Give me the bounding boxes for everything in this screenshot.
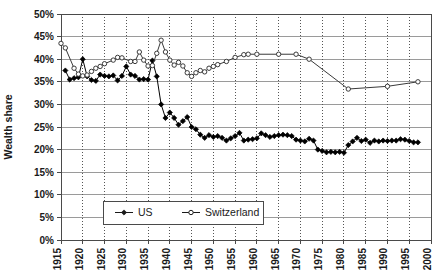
wealth-share-chart: 0%5%10%15%20%25%30%35%40%45%50%191519201… bbox=[0, 0, 443, 280]
series-switzerland-marker-circle bbox=[115, 55, 119, 59]
y-axis-tick-label: 15% bbox=[34, 167, 54, 178]
chart-canvas: 0%5%10%15%20%25%30%35%40%45%50%191519201… bbox=[0, 0, 443, 280]
series-switzerland-marker-circle bbox=[255, 52, 259, 56]
x-axis-tick-label: 1915 bbox=[52, 248, 63, 271]
y-axis-tick-label: 20% bbox=[34, 144, 54, 155]
x-axis-tick-label: 1965 bbox=[270, 248, 281, 271]
x-axis-tick-label: 1975 bbox=[313, 248, 324, 271]
series-switzerland-marker-circle bbox=[59, 41, 63, 45]
y-axis-tick-label: 10% bbox=[34, 189, 54, 200]
series-switzerland-marker-circle bbox=[155, 51, 159, 55]
series-switzerland-marker-circle bbox=[224, 59, 228, 63]
y-axis-tick-label: 40% bbox=[34, 54, 54, 65]
series-switzerland-marker-circle bbox=[416, 80, 420, 84]
series-switzerland-marker-circle bbox=[181, 64, 185, 68]
series-switzerland-marker-circle bbox=[294, 52, 298, 56]
series-switzerland-marker-circle bbox=[146, 64, 150, 68]
series-switzerland-marker-circle bbox=[246, 52, 250, 56]
x-axis-tick-label: 1990 bbox=[378, 248, 389, 271]
series-switzerland-marker-circle bbox=[198, 68, 202, 72]
x-axis-tick-label: 1935 bbox=[139, 248, 150, 271]
x-axis-tick-label: 1920 bbox=[74, 248, 85, 271]
x-axis-tick-label: 1985 bbox=[357, 248, 368, 271]
series-switzerland-marker-circle bbox=[85, 73, 89, 77]
x-axis-tick-label: 1950 bbox=[204, 248, 215, 271]
series-switzerland-marker-circle bbox=[81, 74, 85, 78]
series-switzerland-marker-circle bbox=[185, 71, 189, 75]
y-axis-tick-label: 0% bbox=[40, 235, 55, 246]
legend-label: US bbox=[138, 206, 153, 218]
series-switzerland-marker-circle bbox=[111, 58, 115, 62]
series-switzerland-marker-circle bbox=[76, 72, 80, 76]
series-switzerland-marker-circle bbox=[216, 62, 220, 66]
x-axis-tick-label: 1960 bbox=[248, 248, 259, 271]
series-switzerland-marker-circle bbox=[176, 60, 180, 64]
series-switzerland-marker-circle bbox=[72, 66, 76, 70]
series-switzerland-marker-circle bbox=[168, 58, 172, 62]
series-switzerland-marker-circle bbox=[194, 71, 198, 75]
y-axis-title: Wealth share bbox=[2, 94, 14, 159]
series-switzerland-marker-circle bbox=[189, 74, 193, 78]
series-switzerland-marker-circle bbox=[142, 58, 146, 62]
x-axis-tick-label: 2000 bbox=[422, 248, 433, 271]
series-switzerland-marker-circle bbox=[385, 84, 389, 88]
legend-1-marker-circle bbox=[189, 210, 193, 214]
series-switzerland-marker-circle bbox=[94, 66, 98, 70]
series-switzerland-marker-circle bbox=[120, 56, 124, 60]
y-axis-tick-label: 5% bbox=[40, 212, 55, 223]
legend-label: Switzerland bbox=[205, 206, 259, 218]
series-switzerland-marker-circle bbox=[242, 52, 246, 56]
y-axis-tick-label: 45% bbox=[34, 31, 54, 42]
x-axis-tick-label: 1995 bbox=[400, 248, 411, 271]
series-switzerland-marker-circle bbox=[163, 50, 167, 54]
x-axis-tick-label: 1980 bbox=[335, 248, 346, 271]
series-switzerland-marker-circle bbox=[159, 38, 163, 42]
y-axis-tick-label: 35% bbox=[34, 76, 54, 87]
series-switzerland-marker-circle bbox=[202, 70, 206, 74]
series-switzerland-marker-circle bbox=[89, 69, 93, 73]
x-axis-tick-label: 1930 bbox=[117, 248, 128, 271]
series-switzerland-marker-circle bbox=[207, 66, 211, 70]
series-switzerland-marker-circle bbox=[137, 50, 141, 54]
x-axis-tick-label: 1945 bbox=[183, 248, 194, 271]
y-axis-tick-label: 50% bbox=[34, 9, 54, 20]
x-axis-tick-label: 1925 bbox=[96, 248, 107, 271]
series-switzerland-marker-circle bbox=[63, 46, 67, 50]
series-switzerland-marker-circle bbox=[150, 63, 154, 67]
series-switzerland-marker-circle bbox=[307, 57, 311, 61]
x-axis-tick-label: 1940 bbox=[161, 248, 172, 271]
series-switzerland-marker-circle bbox=[128, 59, 132, 63]
series-switzerland-marker-circle bbox=[346, 87, 350, 91]
x-axis-tick-label: 1970 bbox=[291, 248, 302, 271]
series-switzerland-marker-circle bbox=[133, 59, 137, 63]
series-switzerland-marker-circle bbox=[98, 64, 102, 68]
series-switzerland-marker-circle bbox=[211, 64, 215, 68]
series-switzerland-marker-circle bbox=[233, 55, 237, 59]
series-switzerland-marker-circle bbox=[102, 62, 106, 66]
x-axis-tick-label: 1955 bbox=[226, 248, 237, 271]
y-axis-tick-label: 30% bbox=[34, 99, 54, 110]
series-switzerland-marker-circle bbox=[172, 63, 176, 67]
series-switzerland-marker-circle bbox=[276, 52, 280, 56]
y-axis-tick-label: 25% bbox=[34, 122, 54, 133]
